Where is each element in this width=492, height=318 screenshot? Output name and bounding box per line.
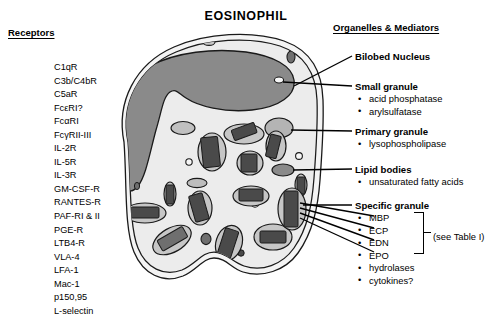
label-group-bilobed-nucleus: Bilobed Nucleus [355,51,430,63]
table-reference-note: (see Table I) [433,231,484,242]
group-label: Primary granule [355,126,446,138]
group-items: unsaturated fatty acids [355,176,463,189]
small-granule [274,77,283,83]
group-label: Lipid bodies [355,164,463,176]
small-granule [201,233,211,244]
small-granule [171,122,195,135]
list-item: unsaturated fatty acids [355,176,463,189]
group-items: lysophospholipase [355,138,446,151]
small-granule [134,182,139,189]
list-item: arylsulfatase [355,106,443,119]
list-item: p150,95 [54,291,154,305]
small-granule [186,159,192,165]
group-items: acid phosphatase arylsulfatase [355,93,443,118]
small-granule [287,51,295,63]
label-group-lipid-bodies: Lipid bodies unsaturated fatty acids [355,164,463,189]
specific-granule [265,131,286,161]
small-granule [187,178,207,187]
group-label: Small granule [355,81,443,93]
specific-granule [188,191,212,225]
specific-granule [237,151,263,175]
group-label: Bilobed Nucleus [355,51,430,63]
table-bracket-tick [423,232,431,233]
specific-granule [233,186,269,206]
list-item: acid phosphatase [355,93,443,106]
table-bracket [414,212,424,254]
small-granule [296,153,303,160]
label-group-small-granule: Small granule acid phosphatase arylsulfa… [355,81,443,118]
lipid-body [272,164,294,176]
list-item: L-selectin [54,305,154,318]
specific-granule [198,133,226,171]
list-item: cytokines? [355,275,429,288]
organelles-heading: Organelles & Mediators [333,22,439,33]
specific-granule [164,182,176,206]
label-group-primary-granule: Primary granule lysophospholipase [355,126,446,151]
list-item: lysophospholipase [355,138,446,151]
group-label: Specific granule [355,200,429,212]
list-item: hydrolases [355,262,429,275]
